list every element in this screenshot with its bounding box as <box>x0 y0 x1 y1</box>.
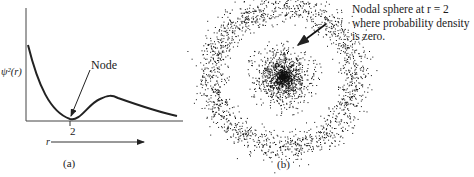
x-axis-label: r <box>46 136 50 147</box>
tick-label-2: 2 <box>70 125 76 137</box>
probability-curve <box>28 45 177 119</box>
panel-b-dot-cloud: (b) <box>187 0 377 173</box>
annotation-line-1: Nodal sphere at r = 2 <box>352 3 474 17</box>
electron-density-dots <box>187 0 377 173</box>
panel-a-plot: ψ²(r) Node 2 r (a) <box>1 8 183 170</box>
caption-b: (b) <box>277 158 290 171</box>
annotation-line-3: is zero. <box>352 30 474 44</box>
nodal-sphere-arrow <box>298 24 326 45</box>
y-axis-label: ψ²(r) <box>1 66 22 78</box>
node-label: Node <box>91 58 117 72</box>
nodal-sphere-annotation: Nodal sphere at r = 2 where probability … <box>352 3 474 44</box>
annotation-line-2: where probability density <box>352 17 474 31</box>
caption-a: (a) <box>63 157 76 170</box>
